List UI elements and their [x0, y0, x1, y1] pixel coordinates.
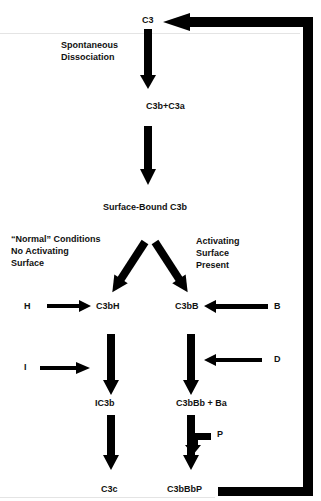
- arrow-ic3b-to-c3c: [103, 415, 119, 470]
- annotation-present: Present: [196, 260, 229, 271]
- factor-h: H: [24, 301, 31, 312]
- annotation-activating: Activating: [196, 236, 240, 247]
- arrow-d: [204, 354, 262, 366]
- node-c3bh: C3bH: [96, 301, 120, 312]
- node-c3bb: C3bB: [175, 301, 199, 312]
- annotation-surface-right: Surface: [196, 248, 229, 259]
- arrow-c3-to-c3b: [140, 29, 156, 89]
- arrow-i: [40, 362, 90, 374]
- node-c3: C3: [142, 15, 154, 26]
- arrow-c3bh-to-ic3b: [103, 334, 119, 395]
- node-c3bbbp: C3bBbP: [167, 484, 202, 495]
- arrow-c3b-to-surface: [140, 126, 156, 185]
- factor-i: I: [24, 362, 27, 373]
- factor-d: D: [274, 354, 281, 365]
- factor-p: P: [217, 429, 223, 440]
- feedback-loop-arrow: [163, 13, 313, 496]
- annotation-no-activating: No Activating: [11, 246, 69, 257]
- arrow-surface-to-c3bh: [106, 238, 152, 297]
- annotation-surface-left: Surface: [11, 258, 44, 269]
- annotation-normal-conditions: “Normal” Conditions: [11, 234, 101, 245]
- arrow-b-to-c3bb: [204, 300, 268, 313]
- annotation-spontaneous: Spontaneous: [61, 40, 118, 51]
- factor-b: B: [274, 301, 281, 312]
- node-c3bbb-ba: C3bBb + Ba: [176, 398, 227, 409]
- node-surface-bound-c3b: Surface-Bound C3b: [103, 202, 187, 213]
- annotation-dissociation: Dissociation: [61, 52, 115, 63]
- node-ic3b: IC3b: [95, 398, 115, 409]
- arrow-h-to-c3bh: [47, 300, 91, 312]
- node-c3c: C3c: [101, 484, 118, 495]
- node-c3b-c3a: C3b+C3a: [146, 101, 185, 112]
- arrow-c3bb-to-c3bbb: [183, 334, 199, 395]
- arrow-surface-to-c3bb: [148, 238, 194, 297]
